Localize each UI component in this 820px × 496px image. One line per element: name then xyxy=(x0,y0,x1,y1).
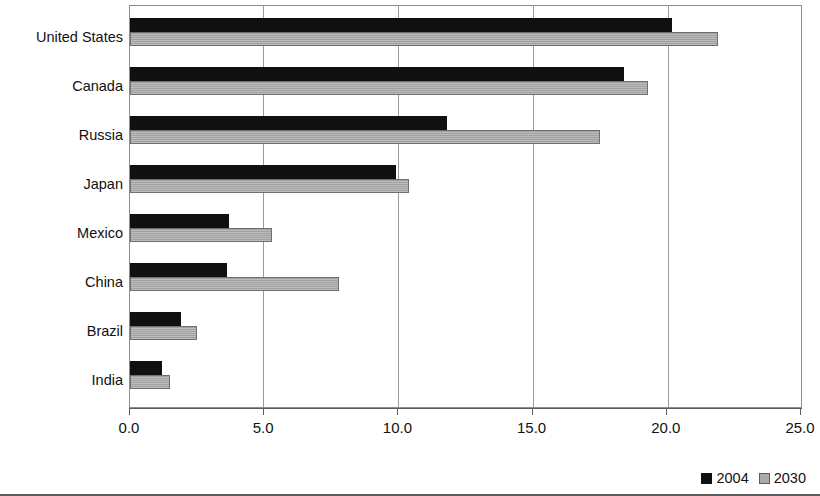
x-tick-5.0 xyxy=(263,408,264,415)
x-tick-0.0 xyxy=(129,408,130,415)
bar-india-2030 xyxy=(130,375,170,389)
bar-united-states-2004 xyxy=(130,18,672,32)
x-axis-line xyxy=(129,408,802,409)
bar-india-2004 xyxy=(130,361,162,375)
category-label-india: India xyxy=(0,373,123,387)
category-axis: United States Canada Russia Japan Mexico… xyxy=(0,5,123,408)
legend-label-2030: 2030 xyxy=(774,470,806,486)
category-label-russia: Russia xyxy=(0,128,123,142)
x-tick-10.0 xyxy=(397,408,398,415)
bar-united-states-2030 xyxy=(130,32,718,46)
legend-label-2004: 2004 xyxy=(716,470,748,486)
category-label-china: China xyxy=(0,275,123,289)
bar-canada-2004 xyxy=(130,67,624,81)
category-label-canada: Canada xyxy=(0,79,123,93)
bar-brazil-2030 xyxy=(130,326,197,340)
x-tick-label-15.0: 15.0 xyxy=(517,419,546,436)
category-label-brazil: Brazil xyxy=(0,324,123,338)
x-tick-label-0.0: 0.0 xyxy=(119,419,140,436)
bar-japan-2030 xyxy=(130,179,409,193)
bar-russia-2004 xyxy=(130,116,447,130)
x-tick-label-20.0: 20.0 xyxy=(651,419,680,436)
legend-item-2030[interactable]: 2030 xyxy=(759,470,806,486)
legend-swatch-2030-icon xyxy=(759,473,770,484)
x-tick-label-25.0: 25.0 xyxy=(785,419,814,436)
legend: 2004 2030 xyxy=(701,470,806,486)
legend-item-2004[interactable]: 2004 xyxy=(701,470,748,486)
x-tick-20.0 xyxy=(666,408,667,415)
x-tick-25.0 xyxy=(800,408,801,415)
bar-mexico-2030 xyxy=(130,228,272,242)
category-label-japan: Japan xyxy=(0,177,123,191)
bar-mexico-2004 xyxy=(130,214,229,228)
bar-russia-2030 xyxy=(130,130,600,144)
x-tick-label-5.0: 5.0 xyxy=(253,419,274,436)
category-label-mexico: Mexico xyxy=(0,226,123,240)
bar-china-2004 xyxy=(130,263,227,277)
bar-canada-2030 xyxy=(130,81,648,95)
x-tick-label-10.0: 10.0 xyxy=(383,419,412,436)
bars-layer xyxy=(130,6,801,407)
bar-brazil-2004 xyxy=(130,312,181,326)
category-label-united-states: United States xyxy=(0,30,123,44)
bar-japan-2004 xyxy=(130,165,396,179)
bar-chart: United States Canada Russia Japan Mexico… xyxy=(0,0,820,496)
legend-swatch-2004-icon xyxy=(701,473,712,484)
x-tick-15.0 xyxy=(532,408,533,415)
bar-china-2030 xyxy=(130,277,339,291)
